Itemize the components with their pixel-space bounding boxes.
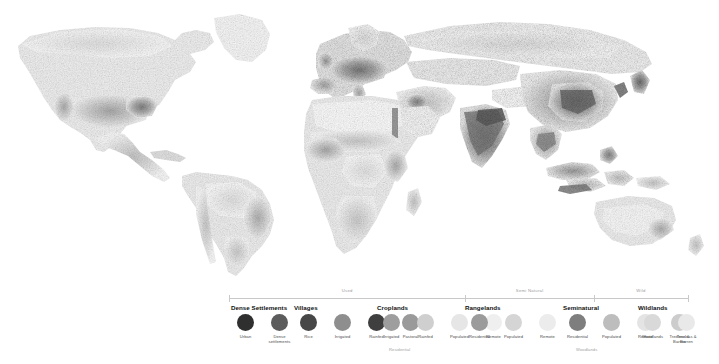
world-map-svg	[0, 0, 719, 290]
legend-group: WildlandsWoodlandsTreeless & Barren	[637, 304, 702, 344]
legend-swatch-dot	[383, 314, 400, 331]
legend-swatch[interactable]: Residential	[464, 314, 495, 339]
legend-swatch-label: Remote	[532, 334, 564, 339]
legend-swatch-label: Populated	[498, 334, 530, 339]
legend-swatch[interactable]: Residential	[562, 314, 593, 339]
legend-swatch-dot	[678, 314, 695, 331]
legend-group: RangelandsResidentialPopulatedRemote	[464, 304, 563, 339]
legend-group: Dense SettlementsUrbanDense settlements	[230, 304, 295, 344]
anthromes-map-page: UsedSemi NaturalWild Dense SettlementsUr…	[0, 0, 719, 364]
legend-swatch-label: Irrigated	[376, 334, 408, 339]
legend-swatch[interactable]: Populated	[498, 314, 529, 339]
legend-tier-label: Wild	[594, 288, 688, 293]
legend-group-caption: Woodlands	[576, 347, 597, 352]
legend-group-title: Wildlands	[638, 304, 702, 311]
legend-swatch-label: Populated	[596, 334, 628, 339]
legend-swatch-dot	[471, 314, 488, 331]
legend-swatch-dot	[417, 314, 434, 331]
world-map[interactable]	[0, 0, 719, 290]
legend-group-title: Rangelands	[465, 304, 563, 311]
legend-group-title: Dense Settlements	[231, 304, 295, 311]
legend-swatch[interactable]: Remote	[532, 314, 563, 339]
legend-swatch-row: WoodlandsTreeless & Barren	[637, 314, 702, 344]
legend-tier-tick	[465, 295, 466, 302]
legend-tier-label: Semi Natural	[465, 288, 594, 293]
legend-tier-tick	[229, 295, 230, 302]
legend-swatch-dot	[237, 314, 254, 331]
legend-swatch-label: Residential	[464, 334, 496, 339]
legend-swatch[interactable]: Dense settlements	[264, 314, 295, 344]
legend-swatch-dot	[271, 314, 288, 331]
legend-swatch-label: Woodlands	[637, 334, 669, 339]
legend-swatch-label: Rainfed	[410, 334, 442, 339]
legend-swatch[interactable]: Populated	[596, 314, 627, 339]
legend-swatch-label: Dense settlements	[264, 334, 296, 344]
legend-swatch-label: Rice	[293, 334, 325, 339]
legend-swatch-dot	[334, 314, 351, 331]
legend-swatch-dot	[539, 314, 556, 331]
legend-swatch[interactable]: Urban	[230, 314, 261, 339]
legend-swatch-dot	[300, 314, 317, 331]
legend-tier-label: Used	[229, 288, 465, 293]
legend-swatch-dot	[644, 314, 661, 331]
legend-swatch[interactable]: Rainfed	[410, 314, 441, 339]
legend-swatch-row: UrbanDense settlements	[230, 314, 295, 344]
legend-swatch-dot	[569, 314, 586, 331]
legend-tier-bar	[229, 298, 688, 299]
map-legend: UsedSemi NaturalWild Dense SettlementsUr…	[0, 288, 719, 364]
legend-tier-tick	[594, 295, 595, 302]
legend-swatch[interactable]: Rice	[293, 314, 324, 339]
legend-tier-tick	[688, 295, 689, 302]
legend-group-caption: Residential	[389, 347, 410, 352]
legend-swatch[interactable]: Woodlands	[637, 314, 668, 339]
legend-swatch-dot	[603, 314, 620, 331]
legend-swatch-label: Residential	[562, 334, 594, 339]
legend-swatch-row: ResidentialPopulatedRemote	[464, 314, 563, 339]
legend-swatch-label: Irrigated	[327, 334, 359, 339]
legend-swatch[interactable]: Irrigated	[376, 314, 407, 339]
legend-swatch[interactable]: Treeless & Barren	[671, 314, 702, 344]
legend-swatch-dot	[505, 314, 522, 331]
legend-swatch-label: Treeless & Barren	[671, 334, 703, 344]
legend-swatch[interactable]: Irrigated	[327, 314, 358, 339]
legend-swatch-label: Urban	[230, 334, 262, 339]
